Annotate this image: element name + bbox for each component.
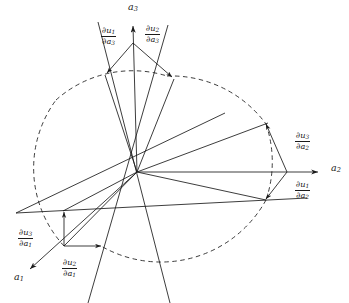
label-du1-da2: ∂u1 ∂a2: [295, 180, 310, 201]
axis-a3: [133, 26, 137, 172]
ray-origin-to-du1da2: [137, 172, 266, 200]
label-du2-da1: ∂u2 ∂a1: [62, 258, 77, 279]
axis-a1: [30, 172, 137, 269]
axis-label-a3: a3: [128, 2, 138, 13]
guide-line-a1-extended: [16, 113, 225, 213]
label-du3-da1: ∂u3 ∂a1: [18, 228, 33, 249]
label-du3-da2: ∂u3 ∂a2: [295, 131, 310, 152]
axis-label-a2: a2: [331, 163, 341, 174]
guide-line-right-lower: [16, 198, 307, 213]
vector-du2-da3: [133, 43, 172, 77]
label-du1-da3: ∂u1 ∂a3: [101, 26, 116, 47]
axis-label-a1: a1: [14, 272, 24, 283]
vector-du3-da2: [266, 124, 287, 172]
guide-line-left-lower: [88, 25, 168, 303]
ray-origin-to-du2da1: [64, 172, 137, 246]
vector-du1-da2: [266, 172, 287, 199]
vector-du1-da3: [107, 43, 133, 73]
ray-origin-to-du1da3: [105, 75, 137, 172]
label-du2-da3: ∂u2 ∂a3: [145, 24, 160, 45]
ray-origin-to-du3da2: [137, 123, 268, 172]
ray-origin-to-du2da3: [137, 79, 174, 172]
